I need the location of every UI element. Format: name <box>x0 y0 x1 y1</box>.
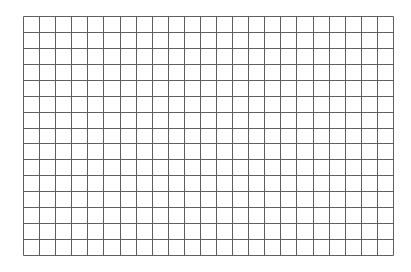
blank-grid <box>23 16 393 255</box>
grid-lines <box>23 16 394 256</box>
